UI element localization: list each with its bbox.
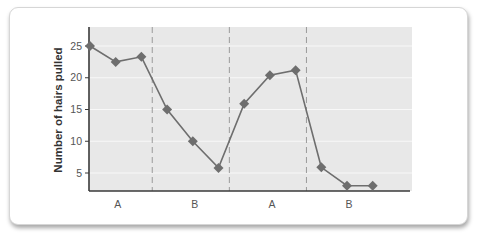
y-tick-label: 5 <box>76 167 82 179</box>
y-tick-label: 25 <box>70 40 82 52</box>
y-axis-title: Number of hairs pulled <box>52 47 64 172</box>
y-tick-label: 15 <box>70 103 82 115</box>
phase-label: B <box>345 198 352 210</box>
y-tick-label: 20 <box>70 71 82 83</box>
y-tick-label: 10 <box>70 135 82 147</box>
phase-label: B <box>191 198 198 210</box>
line-chart: 510152025ABABNumber of hairs pulled <box>0 0 495 241</box>
phase-label: A <box>268 198 275 210</box>
phase-label: A <box>114 198 121 210</box>
